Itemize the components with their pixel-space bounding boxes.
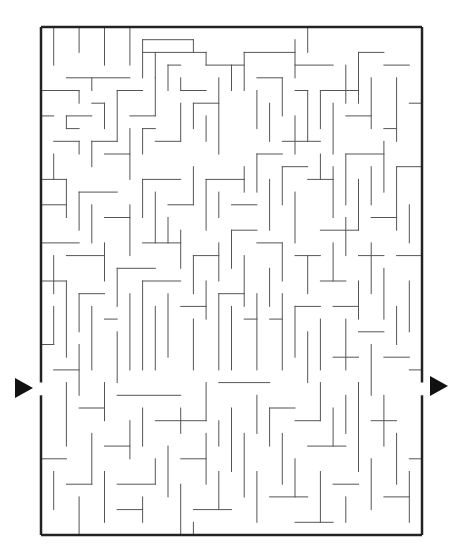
maze-walls — [41, 27, 422, 535]
entrance-arrow-icon — [15, 378, 33, 398]
maze-board — [0, 0, 469, 560]
exit-arrow-icon — [430, 376, 448, 396]
